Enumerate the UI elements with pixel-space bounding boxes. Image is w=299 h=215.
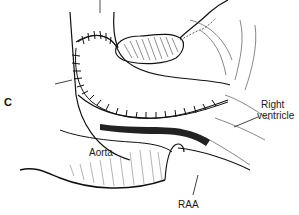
raa-leader: [193, 175, 198, 195]
appendage-bulb: [116, 0, 228, 64]
suture-line-top: [78, 31, 116, 46]
raa-fold: [165, 144, 250, 180]
left-thread: [55, 80, 72, 84]
label-right-ventricle: Right ventricle: [259, 99, 294, 121]
aorta: [20, 130, 172, 188]
label-aorta: Aorta: [89, 147, 113, 158]
groove-shadow: [100, 124, 210, 146]
figure-panel: C Right ventricle Aorta RAA: [0, 0, 299, 215]
aorta-hatching: [70, 150, 162, 186]
label-right-ventricle-line1: Right: [259, 99, 294, 110]
bulb-hatching: [124, 37, 178, 60]
panel-letter: C: [4, 96, 12, 108]
label-right-ventricle-line2: ventricle: [257, 110, 294, 121]
anastomosis-body: [76, 35, 230, 118]
suture-tail: [180, 18, 216, 40]
label-raa: RAA: [178, 199, 199, 210]
surgical-illustration: [0, 0, 299, 215]
right-ventricle-leader: [234, 117, 258, 127]
